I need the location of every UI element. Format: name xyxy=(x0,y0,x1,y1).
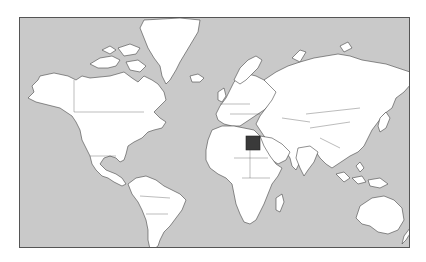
world-map-svg xyxy=(20,18,410,248)
new-zealand xyxy=(402,228,410,244)
south-america xyxy=(128,176,186,248)
india xyxy=(296,146,318,176)
greenland xyxy=(140,18,200,84)
north-america xyxy=(28,72,166,186)
madagascar xyxy=(276,194,284,212)
world-map xyxy=(19,17,410,248)
iceland xyxy=(190,74,204,82)
australia xyxy=(356,196,404,234)
egypt-highlight xyxy=(246,136,260,150)
arctic-islands xyxy=(90,44,146,72)
southeast-asia-islands xyxy=(336,162,388,188)
